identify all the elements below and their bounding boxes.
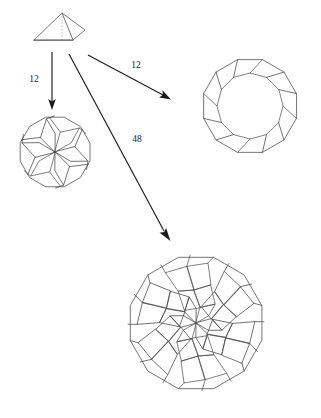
arrow-upper-right-group: 12 [88,55,171,100]
petal-rhombus-mirror [165,326,193,355]
rosette-spoke [69,129,88,146]
band-connector-c [187,255,190,266]
band-connector [178,383,184,389]
pyramid-outline [34,13,85,40]
rosette-spoke [22,157,41,174]
ring-spoke [238,139,250,152]
core-pinwheel-arm [180,297,206,323]
diagram-canvas: 12 12 48 [0,0,321,418]
band-connector-b [128,320,137,328]
pyramid-shape [34,13,85,40]
ring-spoke [216,128,233,146]
ring-spoke [227,60,244,78]
band-connector [145,275,153,283]
outer-band-tile [140,280,175,314]
pinwheel-arm [55,128,79,152]
petal-rhombus-mirror [178,290,200,310]
band-connector [130,338,138,346]
ring-spoke [267,66,284,84]
ring-spokes [204,60,297,153]
hexagonal-pinwheel-rosette [11,108,99,196]
band-connector [208,257,214,263]
arrow-upper-right-label: 12 [131,60,141,70]
ring-spoke [204,94,217,106]
outer-band-tile-b [208,268,244,305]
arrow-lower-right-label: 48 [132,134,142,144]
band-connector-c [202,380,205,391]
ring-spoke [279,83,297,100]
band-connector [254,300,262,308]
arrow-upper-right-shaft [88,55,163,95]
arrow-lower-right-group: 48 [69,54,171,241]
petal-rhombus [177,339,198,362]
ring-spoke [250,60,262,73]
petal-rhombus [194,285,215,308]
rosette-spoke [69,157,88,174]
large-rosette-core-pinwheel [170,297,222,349]
rosette-spoke [24,171,31,176]
rosette-spoke [79,128,86,133]
ring-spoke [272,123,290,140]
small-rosette-pinwheel-tiles [22,119,88,185]
large-dodecagonal-rosette [113,240,280,407]
petal-rhombus [200,329,230,359]
rosette-spoke [49,117,60,132]
ring-spoke [283,106,296,118]
rosette-spoke [83,161,91,169]
ring-outer-dodecagon [191,47,309,165]
ring-spoke [210,72,228,89]
outer-band-tile-b [165,266,194,291]
rosette-spoke [50,172,61,187]
rosette-spoke [22,130,41,147]
ring-inner-dodecagon [217,73,283,139]
pinwheel-arm [34,119,67,152]
petal-rhombus-mirror [192,336,214,356]
ring-spoke [204,112,222,129]
outer-band-tile-b [198,355,227,380]
pinwheel-arm [31,152,55,176]
arrow-down-label: 12 [29,74,39,84]
band-connector-b [255,318,264,326]
ring-spoke [256,135,273,153]
geometric-transformation-figure: 12 12 48 [0,0,321,418]
petal-rhombus [162,287,192,317]
core-pinwheel-arm [186,323,212,349]
outer-band-tile [187,263,211,290]
arrow-upper-right-head [159,90,171,99]
band-connector [239,363,247,371]
outer-band-tile-b [225,312,261,349]
arrow-lower-right-head [160,228,171,241]
arrow-lower-right-shaft [69,54,164,231]
outer-band-tile [181,356,205,383]
outer-band-tile [217,331,252,365]
outer-band-tile-b [132,297,168,334]
petal-rhombus-mirror [198,291,226,320]
rosette-spoke [19,135,27,143]
arrow-down-group: 12 [29,52,56,110]
dodecagonal-ring [191,47,309,165]
outer-band-tile-b [148,341,184,378]
pinwheel-arm [43,152,76,185]
